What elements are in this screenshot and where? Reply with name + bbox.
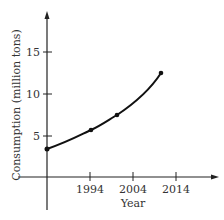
data-point bbox=[45, 147, 50, 152]
y-axis-arrow-icon bbox=[45, 11, 50, 19]
ytick-label-15: 15 bbox=[26, 46, 40, 59]
ytick-label-5: 5 bbox=[33, 130, 40, 143]
x-axis-arrow-icon bbox=[211, 175, 219, 180]
data-line bbox=[47, 73, 161, 149]
y-axis-title: Consumption (million tons) bbox=[10, 29, 23, 181]
x-axis-title: Year bbox=[120, 197, 146, 210]
data-point bbox=[89, 128, 94, 133]
data-point bbox=[115, 113, 120, 118]
ytick-label-10: 10 bbox=[26, 88, 40, 101]
data-point bbox=[159, 71, 164, 76]
xtick-label-2014: 2014 bbox=[162, 183, 190, 196]
chart: 5 10 15 1994 2004 2014 Year Consumption … bbox=[0, 0, 224, 220]
xtick-label-1994: 1994 bbox=[76, 183, 104, 196]
xtick-label-2004: 2004 bbox=[119, 183, 147, 196]
